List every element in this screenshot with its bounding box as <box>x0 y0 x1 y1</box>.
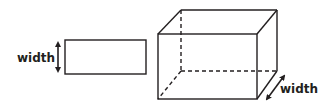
cube-bottom-right-connector <box>257 71 277 99</box>
diagram-canvas: width width <box>0 0 331 108</box>
cube-figure <box>158 10 277 99</box>
rectangle-figure: width <box>17 40 146 74</box>
rectangle-shape <box>65 40 146 74</box>
cube-dimension: width <box>267 76 318 99</box>
rectangle-width-label: width <box>17 51 55 65</box>
cube-hidden-edges <box>158 10 277 99</box>
cube-front-face <box>158 34 257 99</box>
cube-width-label: width <box>280 82 318 96</box>
cube-top-right-connector <box>257 10 277 34</box>
cube-top-left-connector <box>158 10 181 34</box>
